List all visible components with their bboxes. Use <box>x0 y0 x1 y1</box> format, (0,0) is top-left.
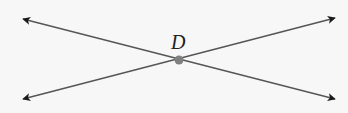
point-label: D <box>170 31 186 53</box>
point-d <box>175 56 184 65</box>
intersecting-lines-diagram: D <box>0 0 348 113</box>
diagram-canvas: D <box>0 0 348 113</box>
